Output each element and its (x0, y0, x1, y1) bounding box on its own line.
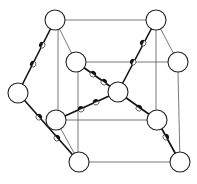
atom-top-left (45, 10, 65, 30)
atom-top-right (146, 10, 166, 30)
atom-bottom-right (170, 152, 190, 172)
atom-left (8, 83, 28, 103)
atom-upper-right (168, 52, 188, 72)
atom-center (108, 82, 128, 102)
atom-lower-inner-right (147, 110, 167, 130)
atoms (8, 10, 190, 172)
atom-bottom-left (69, 152, 89, 172)
atom-lower-inner-left (46, 110, 66, 130)
crystal-lattice-diagram (0, 0, 197, 184)
atom-upper-inner-left (66, 52, 86, 72)
